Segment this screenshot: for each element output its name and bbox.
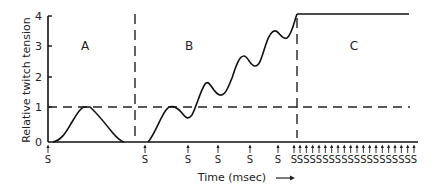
x-axis-label: Time (msec) <box>197 171 266 184</box>
region-label-b: B <box>185 39 193 53</box>
y-tick-0: 0 <box>35 136 42 149</box>
arrow-right-icon <box>276 176 295 181</box>
region-label-c: C <box>350 39 358 53</box>
stimulus-marker: S <box>185 145 191 166</box>
curve-summation <box>148 14 297 142</box>
stimulus-label: S <box>185 154 191 165</box>
stimulus-label: S <box>45 154 51 165</box>
stimulus-marker: S <box>247 145 253 166</box>
y-tick-2: 2 <box>35 71 42 84</box>
stimulus-marker: S <box>45 145 51 166</box>
y-tick-4: 4 <box>35 10 42 23</box>
stimulus-marker: S <box>142 145 148 166</box>
region-label-a: A <box>81 39 90 53</box>
stimulus-marker: S <box>275 145 281 166</box>
twitch-tension-chart: 4 3 2 1 0 Relative twitch tension A B C … <box>0 0 440 190</box>
stimulus-label: S <box>275 154 281 165</box>
y-axis-label: Relative twitch tension <box>20 17 33 143</box>
y-tick-1: 1 <box>35 101 42 114</box>
curve-single-twitch <box>53 107 124 142</box>
stimulus-marker: S <box>215 145 221 166</box>
stimulus-label: S <box>142 154 148 165</box>
y-axis: 4 3 2 1 0 Relative twitch tension <box>20 10 52 149</box>
stimulus-markers: SSSSSSSSSSSSSSSSSSSSSSSSSS <box>45 145 417 166</box>
stimulus-label: S <box>215 154 221 165</box>
y-tick-3: 3 <box>35 40 42 53</box>
stimulus-marker: S <box>411 145 417 166</box>
stimulus-label: S <box>247 154 253 165</box>
stimulus-label: S <box>411 154 417 165</box>
